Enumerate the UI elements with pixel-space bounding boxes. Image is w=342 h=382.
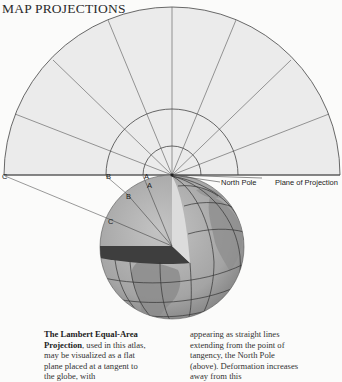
projection-plane	[4, 7, 340, 175]
label-a-globe: A	[147, 181, 152, 190]
label-b-globe: B	[126, 192, 131, 201]
continent-south-america	[131, 262, 180, 330]
label-plane-of-projection: Plane of Projection	[275, 178, 338, 187]
lambert-projection-diagram: C B A A B C North Pole Plane of Projecti…	[0, 0, 342, 382]
caption-column-1: The Lambert Equal-Area Projection, used …	[44, 329, 149, 382]
label-a-plane: A	[144, 172, 149, 181]
label-b-plane: B	[106, 172, 111, 181]
label-c-globe: C	[108, 217, 114, 226]
caption-column-2: appearing as straight lines extending fr…	[190, 329, 300, 382]
label-north-pole: North Pole	[221, 178, 256, 187]
label-c-plane: C	[2, 172, 8, 181]
globe	[100, 175, 244, 330]
